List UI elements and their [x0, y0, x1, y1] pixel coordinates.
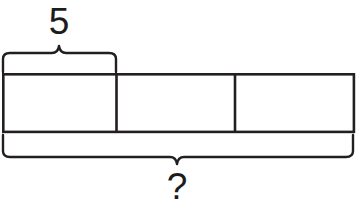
top-brace-path — [3, 46, 116, 72]
tape-bar — [3, 74, 354, 132]
tape-bar-outline — [3, 74, 354, 132]
bottom-brace — [3, 135, 353, 164]
top-brace — [3, 46, 116, 72]
bottom-brace-path — [3, 135, 353, 164]
part-value-label: 5 — [0, 3, 118, 40]
tape-diagram-canvas: 5 ? — [0, 0, 361, 207]
total-value-label: ? — [120, 168, 234, 205]
